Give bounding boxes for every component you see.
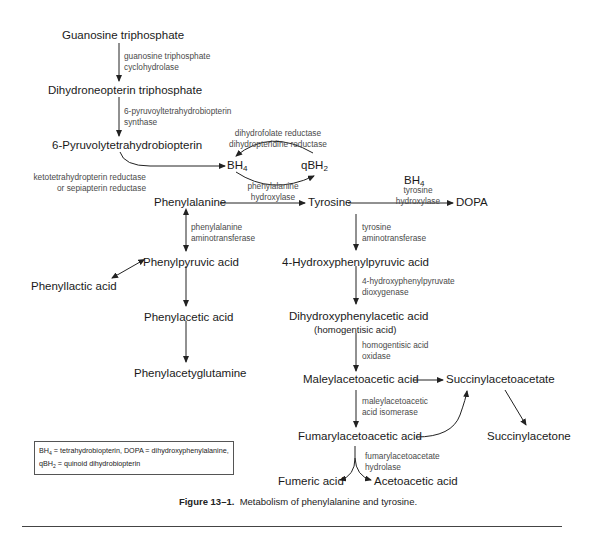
enzyme-gtp-cyclohydrolase: guanosine triphosphatecyclohydrolase: [124, 51, 210, 72]
node-phenylacetylglutamine: Phenylacetyglutamine: [134, 367, 247, 379]
enzyme-phenylalanine-aminotransferase: phenylalanineaminotransferase: [191, 222, 255, 243]
node-fumaric-acid: Fumeric acid: [278, 475, 344, 487]
node-homogentisic-acid-alias: (homogentisic acid): [314, 324, 396, 335]
figure-caption: Figure 13–1. Metabolism of phenylalanine…: [0, 496, 596, 507]
node-phenyllactic-acid: Phenyllactic acid: [31, 280, 117, 292]
node-succinylacetone: Succinylacetone: [487, 430, 571, 442]
figure-caption-text: Metabolism of phenylalanine and tyrosine…: [234, 496, 417, 507]
caption-rule: [22, 526, 562, 527]
node-tyrosine: Tyrosine: [308, 196, 351, 208]
enzyme-hppd: 4-hydroxyphenylpyruvatedioxygenase: [362, 276, 455, 297]
node-maleylacetoacetic-acid: Maleylacetoacetic acid: [303, 373, 419, 385]
enzyme-fumarylacetoacetate-hydrolase: fumarylacetoacetatehydrolase: [365, 451, 440, 472]
node-qbh2: qBH2: [301, 159, 328, 171]
node-phenylpyruvic-acid: Phenylpyruvic acid: [143, 256, 239, 268]
legend-line-1: BH4 = tetrahydrobiopterin, DOPA = dihydr…: [39, 444, 229, 457]
node-guanosine-triphosphate: Guanosine triphosphate: [62, 29, 184, 41]
enzyme-dihydrofolate-dihydropteridine-reductase: dihydrofolate reductasedihydropteridine …: [223, 128, 333, 149]
node-dihydroneopterin-triphosphate: Dihydroneopterin triphosphate: [48, 84, 202, 96]
enzyme-homogentisic-acid-oxidase: homogentisic acidoxidase: [362, 340, 428, 361]
enzyme-ptp-synthase: 6-pyruvoyltetrahydrobiopterinsynthase: [124, 106, 231, 127]
node-4-hydroxyphenylpyruvic-acid: 4-Hydroxyphenylpyruvic acid: [282, 256, 429, 268]
node-dopa: DOPA: [456, 196, 488, 208]
legend-line-2: qBH2 = quinoid dihydrobiopterin: [39, 457, 229, 470]
node-phenylalanine: Phenylalanine: [154, 196, 226, 208]
node-dihydroxyphenylacetic-acid: Dihydroxyphenylacetic acid: [289, 310, 428, 322]
node-succinylacetoacetate: Succinylacetoacetate: [446, 373, 555, 385]
enzyme-ketotetrahydropterin-reductase: ketotetrahydropterin reductaseor sepiapt…: [20, 172, 146, 193]
figure-label: Figure 13–1.: [179, 496, 234, 507]
node-fumarylacetoacetic-acid: Fumarylacetoacetic acid: [298, 430, 422, 442]
enzyme-tyrosine-hydroxylase: tyrosinehydroxylase: [388, 185, 448, 206]
node-phenylacetic-acid: Phenylacetic acid: [144, 311, 234, 323]
node-6-pyruvoyltetrahydrobiopterin: 6-Pyruvolytetrahydrobiopterin: [52, 139, 202, 151]
enzyme-tyrosine-aminotransferase: tyrosineaminotransferase: [362, 222, 426, 243]
enzyme-phenylalanine-hydroxylase: phenylalaninehydroxylase: [238, 181, 308, 202]
node-bh4: BH4: [227, 159, 247, 171]
node-acetoacetic-acid: Acetoacetic acid: [374, 475, 458, 487]
abbreviation-legend: BH4 = tetrahydrobiopterin, DOPA = dihydr…: [34, 441, 234, 475]
enzyme-maleylacetoacetic-acid-isomerase: maleylacetoaceticacid isomerase: [362, 396, 428, 417]
